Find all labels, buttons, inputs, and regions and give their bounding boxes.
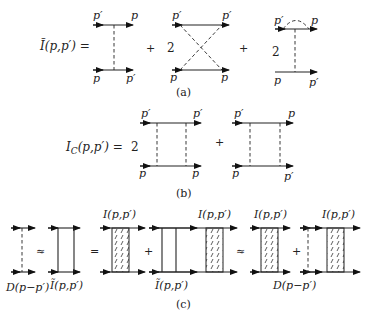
label: p <box>192 167 199 180</box>
coefficient: 2 <box>167 41 175 55</box>
panel-b-lhs-label: IC(p,p′) = <box>65 140 123 156</box>
coefficient: 2 <box>272 45 280 59</box>
caption-a: (a) <box>176 86 191 99</box>
label: p′ <box>193 107 203 120</box>
label-D: D(p−p′) <box>5 281 49 294</box>
diagram-c-I-box-1: I(p,p′) <box>100 208 145 272</box>
diagram-a2-crossed-exchange: p′ p′ p p <box>170 9 232 84</box>
label: p <box>131 9 138 22</box>
plus-sign: + <box>215 136 224 149</box>
feynman-diagram-figure: Ĩ(p,p′) = p′ p p p′ + 2 p′ p′ p p <box>0 0 365 312</box>
diagram-a3-self-energy-arc: p′ p p p′ <box>274 14 319 89</box>
diagram-c-I-tilde-then-I: Ĩ(p,p′) I(p,p′) <box>149 208 237 292</box>
caption-b: (b) <box>176 187 192 200</box>
approx-sign: ≈ <box>36 245 45 258</box>
caption-c: (c) <box>176 298 191 311</box>
approx-sign: ≈ <box>236 245 245 258</box>
label: p′ <box>172 9 182 22</box>
label: p′ <box>141 107 151 120</box>
label: p′ <box>126 72 136 85</box>
label-I: I(p,p′) <box>197 208 231 221</box>
label-I: I(p,p′) <box>321 208 355 221</box>
label-I: I(p,p′) <box>102 208 136 221</box>
label: p <box>93 72 100 85</box>
label: p <box>139 167 146 180</box>
plus-sign: + <box>239 42 248 55</box>
label-D: D(p−p′) <box>272 279 316 292</box>
diagram-c-I-box-2: I(p,p′) <box>250 208 290 272</box>
label: p <box>288 107 295 120</box>
label: p′ <box>274 14 284 27</box>
diagram-b1-ladder: p′ p′ p p <box>139 107 203 180</box>
plus-sign: + <box>144 245 153 258</box>
label: p <box>274 74 281 87</box>
label-I-tilde: Ĩ(p,p′) <box>49 278 83 292</box>
label: p <box>221 71 228 84</box>
panel-a: Ĩ(p,p′) = p′ p p p′ + 2 p′ p′ p p <box>39 9 319 99</box>
plus-sign: + <box>292 245 301 258</box>
label: p′ <box>93 9 103 22</box>
label: p′ <box>234 107 244 120</box>
equals-sign: = <box>90 245 99 258</box>
diagram-b2-ladder: p′ p p p′ <box>232 107 295 183</box>
label: p′ <box>222 9 232 22</box>
panel-a-lhs-label: Ĩ(p,p′) = <box>39 38 90 53</box>
label: p <box>170 71 177 84</box>
label: p′ <box>284 170 294 183</box>
diagram-c-I-tilde-box: Ĩ(p,p′) <box>48 228 83 292</box>
label-I-tilde: Ĩ(p,p′) <box>154 278 188 292</box>
plus-sign: + <box>146 42 155 55</box>
diagram-a1-single-exchange: p′ p p p′ <box>93 9 138 85</box>
panel-c: D(p−p′) ≈ Ĩ(p,p′) = I(p,p′) + <box>5 208 360 311</box>
label-I: I(p,p′) <box>253 208 287 221</box>
panel-b: IC(p,p′) = 2 p′ p′ p p + p′ p p p′ <box>65 107 295 200</box>
coefficient: 2 <box>131 140 139 154</box>
label: p <box>311 14 318 27</box>
label: p′ <box>309 76 319 89</box>
diagram-c-single-exchange: D(p−p′) <box>5 228 49 294</box>
label: p <box>232 167 239 180</box>
